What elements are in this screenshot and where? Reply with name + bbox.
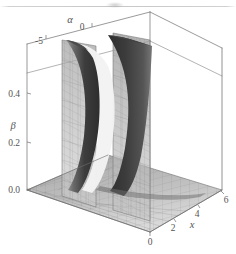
tick-label-x-0: 0 xyxy=(148,237,153,247)
axis-label-beta: β xyxy=(9,120,16,131)
tick-label-beta-00: 0.0 xyxy=(8,185,20,195)
tick-label-x-6: 6 xyxy=(224,195,229,205)
plot-canvas: α 0 -5 β 0.4 0.2 0.0 x 0 2 4 6 xyxy=(0,0,236,254)
tick-label-x-2: 2 xyxy=(171,223,176,233)
tick-beta-04 xyxy=(27,93,31,94)
tick-x-2 xyxy=(174,219,176,222)
axis-label-x: x xyxy=(189,219,195,230)
tick-label-x-4: 4 xyxy=(195,209,200,219)
tick-label-beta-04: 0.4 xyxy=(8,89,20,99)
tick-label-beta-02: 0.2 xyxy=(8,138,20,148)
tick-x-6 xyxy=(221,191,224,194)
tick-label-alpha-neg5: -5 xyxy=(35,36,43,46)
surface-plot-figure: α 0 -5 β 0.4 0.2 0.0 x 0 2 4 6 xyxy=(0,0,236,254)
axis-label-alpha: α xyxy=(67,14,73,25)
tick-beta-02 xyxy=(27,142,31,143)
tick-label-alpha-0: 0 xyxy=(80,22,85,32)
tick-x-4 xyxy=(198,205,200,208)
